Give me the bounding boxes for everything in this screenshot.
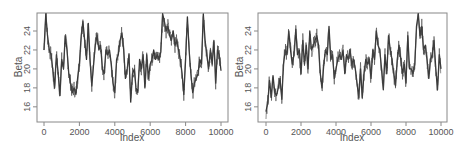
x-tick-label: 10000: [208, 127, 233, 137]
x-tick-label: 8000: [396, 127, 416, 137]
y-tick-label: 18: [243, 83, 253, 93]
x-tick-label: 2000: [69, 127, 89, 137]
x-axis-label: Index: [120, 132, 144, 143]
y-tick-label: 22: [22, 45, 32, 55]
y-tick-label: 16: [243, 102, 253, 112]
y-tick-label: 22: [243, 45, 253, 55]
y-axis: 1618202224: [243, 26, 258, 112]
x-tick-label: 0: [41, 127, 46, 137]
y-tick-label: 18: [22, 83, 32, 93]
y-tick-label: 24: [243, 26, 253, 36]
left-trace-plot: 0200040006000800010000 1618202224 Index …: [13, 13, 234, 143]
x-tick-label: 0: [263, 127, 268, 137]
x-tick-label: 8000: [176, 127, 196, 137]
x-tick-label: 2000: [291, 127, 311, 137]
trace-line-noise: [266, 13, 441, 119]
trace-plots-figure: 0200040006000800010000 1618202224 Index …: [0, 0, 470, 148]
y-tick-label: 24: [22, 26, 32, 36]
y-axis-label: Beta: [13, 56, 24, 77]
x-axis-label: Index: [340, 132, 364, 143]
y-tick-label: 16: [22, 102, 32, 112]
y-axis: 1618202224: [22, 26, 37, 112]
right-trace-plot: 0200040006000800010000 1618202224 Index …: [234, 13, 454, 143]
x-tick-label: 10000: [428, 127, 453, 137]
y-axis-label: Beta: [234, 56, 245, 77]
